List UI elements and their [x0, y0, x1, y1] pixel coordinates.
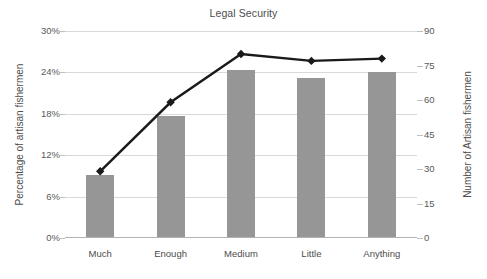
line-marker	[307, 57, 315, 65]
y-axis-left-title: Percentage of artisan fishermen	[14, 35, 25, 235]
tickmark	[417, 135, 423, 136]
x-axis-tick-label: Much	[65, 248, 135, 259]
line-marker	[378, 54, 386, 62]
tickmark	[417, 66, 423, 67]
y-axis-right-tick-label: 30	[424, 163, 454, 174]
tickmark	[59, 238, 65, 239]
x-axis-baseline	[65, 237, 417, 238]
x-axis-tick-label: Little	[276, 248, 346, 259]
y-axis-left-tick-label: 24%	[26, 66, 60, 77]
y-axis-right-tick-label: 60	[424, 94, 454, 105]
chart-container: Legal Security Percentage of artisan fis…	[0, 0, 487, 279]
x-axis-tick-label: Anything	[347, 248, 417, 259]
chart-title: Legal Security	[0, 7, 487, 19]
y-axis-left-tick-label: 12%	[26, 149, 60, 160]
y-axis-right-title: Number of Artisan fishermen	[462, 35, 473, 235]
y-axis-right-tick-label: 45	[424, 129, 454, 140]
y-axis-right-tick-label: 75	[424, 60, 454, 71]
tickmark	[417, 204, 423, 205]
plot-area	[65, 31, 417, 238]
y-axis-left-tick-label: 18%	[26, 108, 60, 119]
y-axis-left-tick-label: 0%	[26, 232, 60, 243]
tickmark	[417, 238, 423, 239]
y-axis-right-tick-label: 90	[424, 25, 454, 36]
line-path	[100, 54, 382, 171]
tickmark	[417, 100, 423, 101]
y-axis-right-tick-label: 0	[424, 232, 454, 243]
line-markers	[96, 50, 386, 176]
line-series	[65, 31, 417, 238]
tickmark	[417, 169, 423, 170]
y-axis-left-tick-label: 30%	[26, 25, 60, 36]
x-axis-tick-label: Enough	[135, 248, 205, 259]
tickmark	[417, 31, 423, 32]
y-axis-left-tick-label: 6%	[26, 191, 60, 202]
x-axis-tick-label: Medium	[206, 248, 276, 259]
y-axis-right-tick-label: 15	[424, 198, 454, 209]
